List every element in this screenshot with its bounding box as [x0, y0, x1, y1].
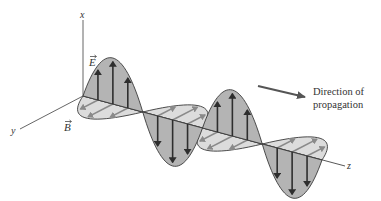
b-field-label: B — [64, 120, 72, 133]
annotation-line-2: propagation — [313, 99, 364, 110]
annotation-line-1: Direction of — [313, 86, 365, 97]
y-axis — [20, 96, 83, 129]
e-field-label: E — [88, 55, 97, 68]
em-wave-diagram: x y z E B Direction of propagation — [0, 0, 381, 201]
x-axis-label: x — [79, 9, 85, 20]
z-axis-label: z — [346, 160, 351, 171]
propagation-annotation: Direction of propagation — [258, 86, 365, 110]
electric-field-lobes — [83, 58, 322, 199]
direction-arrow-icon — [258, 86, 305, 97]
y-axis-label: y — [10, 125, 16, 136]
